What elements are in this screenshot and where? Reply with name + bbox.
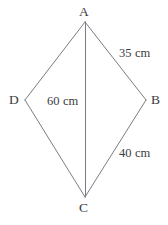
edge-c-d (25, 100, 85, 197)
vertex-label-b: B (151, 93, 160, 107)
vertex-label-d: D (9, 93, 19, 107)
measurement-label-side-ab: 35 cm (119, 47, 150, 60)
measurement-label-side-bc: 40 cm (119, 147, 150, 160)
measurement-label-diagonal-ac: 60 cm (47, 95, 78, 108)
geometry-figure: A B C D 35 cm 60 cm 40 cm (0, 0, 168, 225)
edge-a-b (85, 22, 146, 100)
kite-diagram-svg (0, 0, 168, 225)
edge-d-a (25, 22, 85, 100)
vertex-label-c: C (79, 201, 88, 215)
vertex-label-a: A (79, 5, 89, 19)
